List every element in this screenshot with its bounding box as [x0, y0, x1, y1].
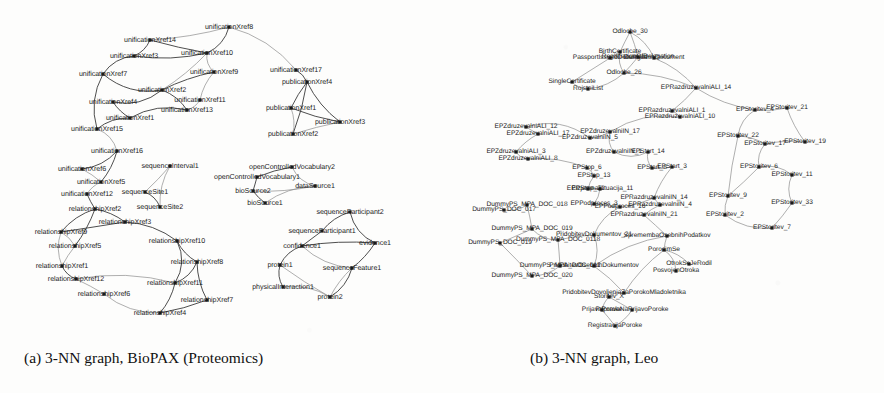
graph-node-label: SpremembaOsebnihPodatkov: [624, 232, 711, 240]
graph-node-label: unificationXref7: [79, 70, 127, 78]
graph-node-label: physicalInteraction1: [252, 283, 314, 291]
graph-node-label: EPStoritev_33: [771, 199, 813, 207]
graph-node-label: unificationXref8: [205, 23, 253, 31]
graph-node-label: unificationXref15: [71, 125, 123, 133]
graph-node-label: EPRazdruzevalniIN_4: [628, 201, 692, 209]
graph-edge: [307, 82, 340, 122]
graph-node-label: PorocimSe: [648, 246, 680, 254]
graph-node-label: unificationXref16: [91, 147, 143, 155]
graph-node-label: EPStart_8: [637, 164, 667, 172]
graph-node-label: EPRazdruzevalniALI_10: [645, 113, 715, 121]
graph-node-label: unificationXref2: [138, 86, 186, 94]
graph-node-label: DummyPS_DOC_019: [468, 239, 532, 247]
graph-node-label: relationshipXref4: [134, 309, 186, 317]
graph-node-label: EPStoritev_17: [744, 140, 786, 148]
graph-node-label: relationshipXref8: [171, 258, 223, 266]
graph-node-label: EPZdruzevalniIN_5: [562, 134, 618, 142]
graph-node-label: EPRazdruzevalniIN_21: [610, 211, 677, 219]
graph-node-label: sequenceParticipant2: [316, 208, 383, 216]
graph-node-label: unificationXref11: [174, 96, 225, 104]
graph-node-label: unificationXref14: [124, 36, 176, 44]
graph-node-label: unificationXref3: [110, 52, 158, 60]
graph-node-label: DummyPS_DOC_017: [472, 206, 536, 214]
graph-node-label: relationshipXref12: [48, 275, 104, 283]
graph-node-label: relationshipXref3: [99, 218, 151, 226]
graph-node-label: EPStop_21: [572, 185, 605, 193]
graph-node-label: EPZdruzevalniALI_17: [507, 130, 570, 138]
graph-node-label: relationshipXref7: [181, 296, 233, 304]
graph-node-label: EPStoritev_6: [740, 163, 778, 171]
graph-node-label: unificationXref9: [190, 68, 238, 76]
graph-node-label: relationshipXref10: [149, 237, 205, 245]
graph-node-label: DummyPS_MPA_DOC_020: [491, 272, 572, 280]
caption-panel-b: (b) 3-NN graph, Leo: [530, 349, 658, 367]
graph-node-label: unificationXref17: [270, 66, 322, 74]
graph-node-label: unificationXref5: [77, 178, 125, 186]
graph-node-label: evidence1: [359, 239, 391, 247]
graph-node-label: EPStart_14: [631, 148, 664, 156]
graph-node-label: protein2: [317, 293, 342, 301]
graph-node-label: sequenceInterval1: [141, 162, 198, 170]
graph-node-label: openControlledVocabulary1: [214, 173, 300, 181]
graph-node-label: Odlocbe_26: [606, 69, 641, 77]
graph-node-label: publicationXref4: [282, 78, 332, 86]
graph-node-label: EPStoritev_9: [709, 192, 747, 200]
graph-edge: [787, 108, 805, 142]
graph-node-label: Storitev_X: [594, 293, 624, 301]
graph-node-label: unificationXref4: [89, 98, 137, 106]
figure-panel-b: Odlocbe_30BirthCertificateRegistrationOf…: [442, 0, 884, 340]
graph-node-label: EPStoritev_19: [784, 138, 826, 146]
graph-node-label: relationshipXref6: [78, 290, 130, 298]
graph-node-label: EPStop_6: [572, 164, 601, 172]
graph-node-label: unificationXref12: [61, 190, 113, 198]
graph-node-label: RegistracijaPoroke: [588, 322, 642, 330]
graph-node-label: relationshipXref11: [147, 279, 203, 287]
graph-node-label: relationshipXref1: [36, 262, 88, 270]
graph-node-label: RojstniList: [573, 85, 603, 93]
graph-edge: [229, 27, 296, 70]
graph-node-label: sequenceFeature1: [323, 264, 381, 272]
graph-node-label: sequenceSite2: [137, 203, 183, 211]
graph-node-label: relationshipXref9: [35, 228, 87, 236]
graph-node-label: unificationXref10: [181, 49, 233, 57]
graph-node-label: confidence1: [283, 242, 321, 250]
graph-node-label: EPStoritev_2: [706, 211, 744, 219]
graph-node-label: EPStoritev_7: [753, 224, 791, 232]
graph-node-label: Odlocbe_30: [612, 28, 647, 36]
graph-node-label: unificationXref1: [106, 114, 154, 122]
graph-node-label: unificationXref6: [58, 165, 106, 173]
graph-node-label: PridobitevOsebnihDokumentov: [549, 262, 639, 270]
caption-panel-a: (a) 3-NN graph, BioPAX (Proteomics): [24, 349, 263, 367]
graph-node-label: EPStoritev_4: [736, 106, 774, 114]
graph-node-label: EPRazdruzevalniALI_14: [661, 84, 731, 92]
graph-node-label: relationshipXref5: [49, 242, 101, 250]
graph-node-label: openControlledVocabulary2: [249, 163, 335, 171]
graph-node-label: EPStop_13: [578, 172, 611, 180]
graph-node-label: publicationXref2: [268, 130, 318, 138]
graph-node-label: PosvojenOtroka: [653, 267, 699, 275]
graph-node-label: dataSource1: [295, 182, 335, 190]
figure-panel-a: unificationXref8unificationXref14unifica…: [0, 0, 442, 340]
graph-node-label: protein1: [267, 261, 292, 269]
graph-node-label: EPStoritev_22: [717, 132, 759, 140]
graph-node-label: publicationXref1: [266, 104, 316, 112]
graph-node-label: EPZdruzevalniALI_8: [498, 155, 557, 163]
graph-node-label: sequenceSite1: [122, 188, 168, 196]
graph-node-label: bioSource1: [247, 199, 282, 207]
graph-node-label: sequenceParticipant1: [288, 227, 355, 235]
graph-node-label: DelegationDocument: [624, 54, 685, 62]
figure-page: unificationXref8unificationXref14unifica…: [0, 0, 884, 393]
graph-node-label: EPStoritev_11: [771, 171, 812, 179]
graph-node-label: unificationXref13: [161, 106, 213, 114]
graph-node-label: bioSource2: [235, 187, 270, 195]
graph-node-label: publicationXref3: [315, 118, 365, 126]
graph-node-label: relationshipXref2: [69, 205, 121, 213]
graph-edge: [728, 136, 738, 196]
graph-node-label: PripravaNaPrijavoPoroke: [596, 306, 669, 314]
